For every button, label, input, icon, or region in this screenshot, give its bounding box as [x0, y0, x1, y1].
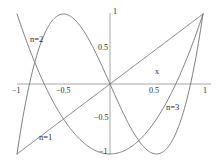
curve-label-n2: n=2	[30, 35, 43, 44]
y-tick-label-neg0point5: −0.5	[94, 114, 109, 122]
x-tick-label-neg1: −1	[12, 87, 21, 95]
chart-svg	[0, 0, 219, 161]
y-tick-label-0point5: 0.5	[98, 44, 108, 52]
curve-label-n3: n=3	[166, 103, 179, 112]
curve-label-n1: n=1	[39, 133, 52, 142]
y-tick-label-1: 1	[113, 8, 117, 16]
x-tick-label-0point5: 0.5	[149, 87, 159, 95]
x-tick-label-neg0point5: −0.5	[56, 87, 71, 95]
x-axis-label: x	[155, 68, 159, 76]
y-tick-label-neg1: −1	[99, 148, 108, 156]
chart-plot-area: −1 −0.5 0.5 1 1 0.5 −0.5 −1 x n=2 n=1 n=…	[0, 0, 219, 161]
x-tick-label-1: 1	[203, 87, 207, 95]
